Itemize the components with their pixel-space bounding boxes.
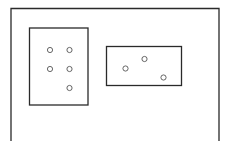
left-box <box>30 28 89 105</box>
diagram-canvas <box>0 0 228 141</box>
right-box <box>107 47 182 86</box>
left-box-circles <box>47 47 72 90</box>
circle <box>161 75 166 80</box>
circle <box>142 56 147 61</box>
circle <box>123 66 128 71</box>
circle <box>47 66 52 71</box>
circle <box>67 85 72 90</box>
circle <box>67 66 72 71</box>
circle <box>47 47 52 52</box>
right-box-circles <box>123 56 166 80</box>
circle <box>67 47 72 52</box>
